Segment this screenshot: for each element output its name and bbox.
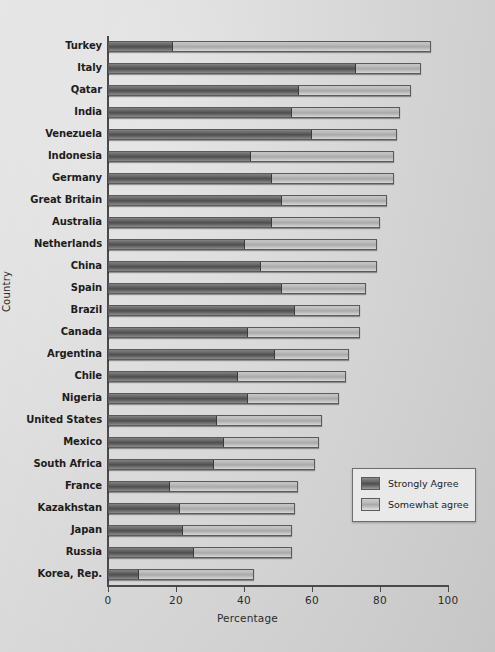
x-tick: [244, 586, 245, 592]
category-label: Korea, Rep.: [2, 568, 102, 579]
stacked-bar: [108, 393, 339, 404]
category-label: Mexico: [2, 436, 102, 447]
bar-segment-strongly-agree: [108, 107, 292, 118]
bar-segment-strongly-agree: [108, 261, 261, 272]
category-label: Nigeria: [2, 392, 102, 403]
category-label: Germany: [2, 172, 102, 183]
stacked-bar-chart: Country TurkeyItalyQatarIndiaVenezuelaIn…: [0, 0, 495, 652]
legend: Strongly Agree Somewhat agree: [352, 468, 476, 522]
stacked-bar: [108, 239, 377, 250]
stacked-bar: [108, 129, 397, 140]
bar-segment-strongly-agree: [108, 525, 183, 536]
stacked-bar: [108, 525, 292, 536]
x-tick-label: 60: [305, 594, 319, 606]
bar-segment-strongly-agree: [108, 415, 217, 426]
bar-segment-strongly-agree: [108, 173, 272, 184]
stacked-bar: [108, 283, 366, 294]
stacked-bar: [108, 437, 319, 448]
bar-segment-strongly-agree: [108, 63, 356, 74]
bar-segment-somewhat-agree: [180, 503, 295, 514]
legend-label-strongly-agree: Strongly Agree: [388, 478, 459, 489]
x-tick-label: 20: [169, 594, 183, 606]
stacked-bar: [108, 371, 346, 382]
bar-segment-somewhat-agree: [282, 283, 367, 294]
bar-segment-somewhat-agree: [245, 239, 377, 250]
stacked-bar: [108, 261, 377, 272]
bar-segment-strongly-agree: [108, 481, 170, 492]
bar-segment-somewhat-agree: [170, 481, 299, 492]
category-label: Turkey: [2, 40, 102, 51]
x-tick-label: 40: [237, 594, 251, 606]
bar-segment-somewhat-agree: [299, 85, 411, 96]
category-label: Japan: [2, 524, 102, 535]
category-label: Russia: [2, 546, 102, 557]
bar-segment-strongly-agree: [108, 569, 139, 580]
x-tick-label: 0: [105, 594, 112, 606]
category-label: United States: [2, 414, 102, 425]
stacked-bar: [108, 41, 431, 52]
x-axis-line: [107, 585, 449, 587]
bar-segment-strongly-agree: [108, 283, 282, 294]
bar-segment-strongly-agree: [108, 129, 312, 140]
x-tick: [312, 586, 313, 592]
bar-segment-somewhat-agree: [238, 371, 346, 382]
legend-item-strongly-agree: Strongly Agree: [361, 477, 459, 490]
category-label: Brazil: [2, 304, 102, 315]
stacked-bar: [108, 547, 292, 558]
x-tick: [176, 586, 177, 592]
x-axis-title: Percentage: [0, 612, 495, 624]
bar-segment-strongly-agree: [108, 195, 282, 206]
legend-item-somewhat-agree: Somewhat agree: [361, 498, 469, 511]
bar-segment-strongly-agree: [108, 239, 245, 250]
bar-segment-strongly-agree: [108, 217, 272, 228]
stacked-bar: [108, 151, 394, 162]
bar-segment-somewhat-agree: [275, 349, 349, 360]
bar-segment-strongly-agree: [108, 459, 214, 470]
bar-segment-strongly-agree: [108, 437, 224, 448]
stacked-bar: [108, 217, 380, 228]
bar-segment-strongly-agree: [108, 349, 275, 360]
bar-segment-somewhat-agree: [292, 107, 400, 118]
bar-segment-strongly-agree: [108, 85, 299, 96]
bar-segment-somewhat-agree: [272, 173, 394, 184]
category-label: Great Britain: [2, 194, 102, 205]
bar-segment-strongly-agree: [108, 503, 180, 514]
bar-segment-somewhat-agree: [295, 305, 359, 316]
category-label: France: [2, 480, 102, 491]
legend-swatch-somewhat-agree: [361, 498, 380, 511]
category-label: Canada: [2, 326, 102, 337]
category-label: Netherlands: [2, 238, 102, 249]
category-label: Argentina: [2, 348, 102, 359]
bar-segment-strongly-agree: [108, 151, 251, 162]
stacked-bar: [108, 569, 254, 580]
bar-segment-somewhat-agree: [356, 63, 420, 74]
bar-segment-somewhat-agree: [282, 195, 387, 206]
category-label: Australia: [2, 216, 102, 227]
bar-segment-strongly-agree: [108, 547, 194, 558]
x-tick: [448, 586, 449, 592]
category-label: Kazakhstan: [2, 502, 102, 513]
bar-segment-somewhat-agree: [214, 459, 316, 470]
stacked-bar: [108, 63, 421, 74]
stacked-bar: [108, 459, 315, 470]
bar-segment-somewhat-agree: [261, 261, 376, 272]
bar-segment-somewhat-agree: [248, 327, 360, 338]
stacked-bar: [108, 173, 394, 184]
legend-swatch-strongly-agree: [361, 477, 380, 490]
category-label: South Africa: [2, 458, 102, 469]
category-label: Italy: [2, 62, 102, 73]
bar-segment-somewhat-agree: [272, 217, 380, 228]
stacked-bar: [108, 195, 387, 206]
bar-segment-strongly-agree: [108, 393, 248, 404]
stacked-bar: [108, 481, 298, 492]
x-tick: [380, 586, 381, 592]
bar-segment-somewhat-agree: [224, 437, 319, 448]
x-tick-label: 100: [438, 594, 459, 606]
stacked-bar: [108, 415, 322, 426]
stacked-bar: [108, 85, 411, 96]
bar-segment-somewhat-agree: [173, 41, 431, 52]
bar-segment-somewhat-agree: [139, 569, 254, 580]
bar-segment-somewhat-agree: [217, 415, 322, 426]
bar-segment-somewhat-agree: [183, 525, 291, 536]
bar-segment-strongly-agree: [108, 371, 238, 382]
